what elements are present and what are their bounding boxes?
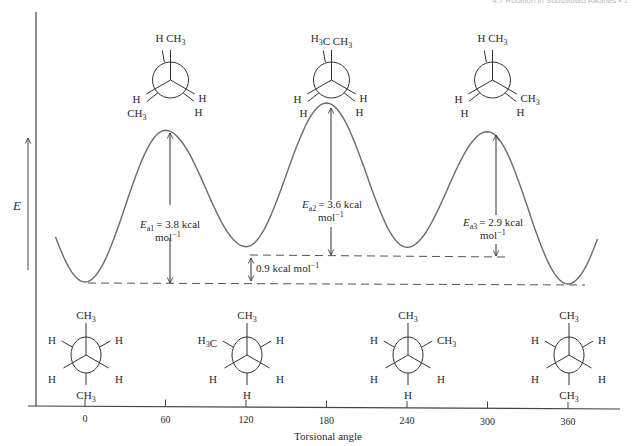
x-tick-label: 0	[83, 413, 88, 424]
atom-label: CH3	[237, 309, 256, 324]
energy-curve	[56, 103, 598, 284]
gauche-baseline-dashed	[250, 255, 505, 257]
newman-staggered-240: CH3HHCH3HH	[370, 309, 456, 401]
atom-label: H	[115, 373, 123, 385]
atom-label: CH3	[559, 309, 578, 324]
x-tick-label: 360	[561, 416, 576, 427]
atom-label: H	[455, 93, 463, 105]
atom-label: CH3	[559, 389, 578, 404]
atom-label: CH3	[521, 92, 540, 107]
atom-label: H3C	[198, 334, 217, 349]
atom-label: CH3	[76, 309, 95, 324]
atom-label: H	[370, 373, 378, 385]
atom-label: H	[598, 373, 606, 385]
atom-label: CH3	[437, 334, 456, 349]
x-tick-label: 60	[161, 414, 171, 425]
atom-label: H	[294, 93, 302, 105]
atom-label: H	[48, 373, 56, 385]
y-axis-label: E	[12, 198, 21, 213]
atom-label: H	[276, 334, 284, 346]
x-tick-label: 120	[239, 414, 254, 425]
atom-label: H	[598, 334, 606, 346]
atom-label: H	[437, 373, 445, 385]
newman-eclipsed-180: H3C CH3HHHH	[294, 32, 368, 119]
x-axis-label: Torsional angle	[294, 430, 362, 442]
atom-label: H	[531, 334, 539, 346]
ea1-unit: mol−1	[155, 230, 181, 243]
atom-label: CH3	[127, 107, 146, 122]
atom-label: H	[360, 92, 368, 104]
atom-label: CH3	[398, 309, 417, 324]
atom-label: H	[115, 334, 123, 346]
x-axis	[28, 406, 620, 409]
atom-label: H	[370, 334, 378, 346]
atom-label: H	[195, 106, 203, 118]
x-tick-label: 240	[400, 415, 415, 426]
newman-eclipsed-300: H CH3HHCH3H	[455, 32, 540, 119]
atom-label: H	[243, 389, 251, 401]
atom-label: H	[404, 389, 412, 401]
energy-diagram: E 060120180240300360 Torsional angle Ea1…	[0, 0, 634, 446]
atom-label: H	[356, 106, 364, 118]
atom-label: H CH3	[156, 32, 186, 47]
newman-staggered-0: CH3CH3HHHH	[48, 309, 123, 404]
atom-label: H	[199, 92, 207, 104]
atom-label: H	[276, 373, 284, 385]
x-axis-ticks: 060120180240300360	[83, 399, 576, 427]
atom-label: H	[461, 107, 469, 119]
ea3-unit: mol−1	[480, 228, 506, 241]
newman-eclipsed-60: H CH3HCH3HH	[127, 32, 206, 122]
x-tick-label: 180	[319, 415, 334, 426]
atom-label: H	[531, 373, 539, 385]
ea2-unit: mol−1	[318, 210, 344, 223]
atom-label: CH3	[76, 389, 95, 404]
anti-baseline-dashed	[88, 283, 585, 285]
atom-label: H	[300, 107, 308, 119]
newman-staggered-360: CH3CH3HHHH	[531, 309, 606, 404]
x-tick-label: 300	[480, 416, 495, 427]
atom-label: H3C CH3	[311, 32, 352, 50]
atom-label: H	[48, 334, 56, 346]
newman-staggered-120: CH3HH3CHHH	[198, 309, 284, 401]
atom-label: H CH3	[478, 32, 508, 47]
atom-label: H	[209, 373, 217, 385]
atom-label: H	[133, 93, 141, 105]
atom-label: H	[517, 106, 525, 118]
gauche-gap-label: 0.9 kcal mol−1	[256, 261, 319, 274]
